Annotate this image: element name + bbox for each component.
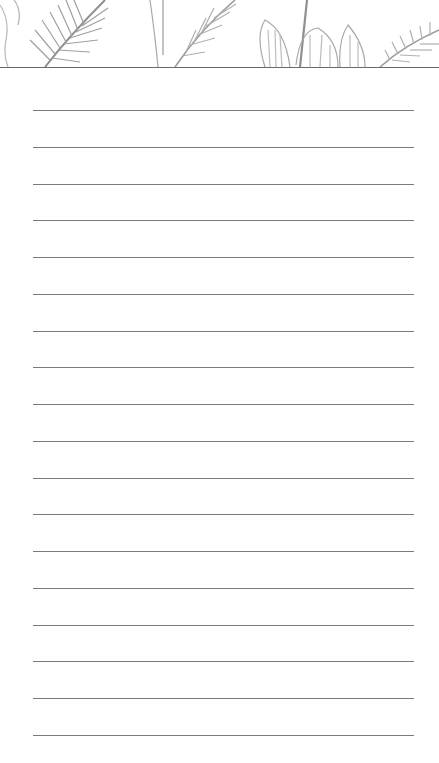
ruled-line <box>33 735 414 736</box>
ruled-line <box>33 661 414 662</box>
ruled-line <box>33 478 414 479</box>
ruled-line <box>33 367 414 368</box>
ruled-line <box>33 294 414 295</box>
ruled-line <box>33 257 414 258</box>
ruled-line <box>33 110 414 111</box>
ruled-line <box>33 625 414 626</box>
ruled-line <box>33 588 414 589</box>
ruled-line <box>33 331 414 332</box>
ruled-line <box>33 404 414 405</box>
ruled-line <box>33 698 414 699</box>
ruled-line <box>33 147 414 148</box>
ruled-line <box>33 514 414 515</box>
ruled-line <box>33 184 414 185</box>
ruled-line <box>33 220 414 221</box>
ruled-line <box>33 551 414 552</box>
ruled-lines <box>33 0 414 763</box>
ruled-line <box>33 441 414 442</box>
